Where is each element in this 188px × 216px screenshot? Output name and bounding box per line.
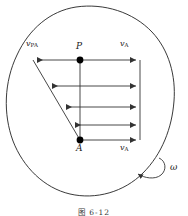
rotation-arc-arrow (138, 158, 165, 178)
label-v-A-top-subscript: A (125, 42, 129, 48)
rigid-body-outline (6, 6, 174, 196)
figure-caption: 图 6-12 (0, 206, 188, 216)
diagram-canvas (0, 0, 188, 216)
label-v-A-top: vA (120, 40, 129, 49)
label-v-A-bottom: vA (120, 144, 129, 153)
left-arrow-group (37, 60, 80, 125)
point-marker-P (77, 57, 84, 64)
right-arrow-group (80, 60, 136, 140)
velocity-envelope-line (33, 60, 80, 140)
angular-velocity-label: ω (170, 163, 177, 172)
point-label-A: A (76, 144, 83, 153)
label-v-PA: vPA (26, 40, 38, 49)
point-label-P: P (76, 42, 82, 51)
label-v-PA-subscript: PA (31, 42, 39, 48)
label-v-A-bottom-subscript: A (125, 146, 129, 152)
figure-container: vPA vA vA P A ω 图 6-12 (0, 0, 188, 216)
